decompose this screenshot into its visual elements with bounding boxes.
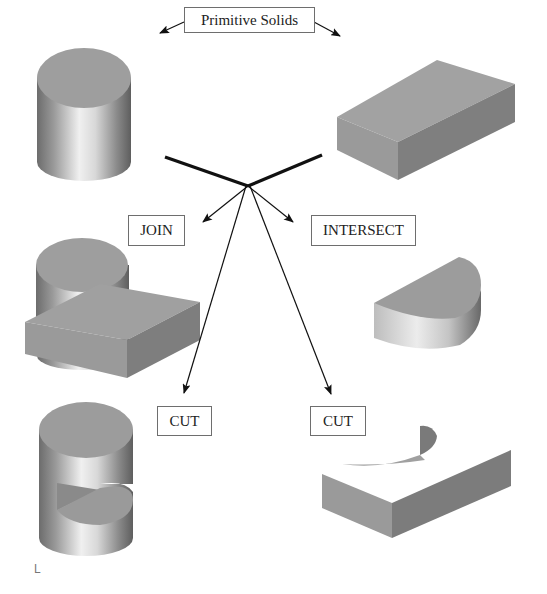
arrow-to-box <box>314 22 340 36</box>
operation-arrows <box>184 186 331 394</box>
arrow-join <box>203 186 248 222</box>
primitive-solids-label: Primitive Solids <box>184 7 315 33</box>
cut-right-label: CUT <box>310 406 366 436</box>
join-label: JOIN <box>128 215 185 246</box>
corner-mark: L <box>34 562 41 576</box>
primitive-box <box>337 60 515 180</box>
diagram-canvas <box>0 0 547 594</box>
join-result <box>25 238 200 378</box>
intersect-result <box>374 257 481 349</box>
arrow-cut-left <box>184 186 246 393</box>
intersect-label: INTERSECT <box>311 215 416 246</box>
cut-cylinder-result <box>39 402 133 556</box>
merge-lines <box>165 155 322 186</box>
cut-left-label: CUT <box>157 406 212 436</box>
cut-block-result <box>322 426 511 538</box>
primitive-cylinder <box>37 48 131 181</box>
arrow-to-cylinder <box>160 22 184 33</box>
arrow-intersect <box>248 186 293 222</box>
